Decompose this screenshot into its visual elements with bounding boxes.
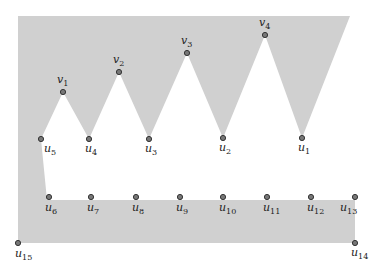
vertex-label: u1 (298, 141, 310, 156)
vertex-dot (352, 240, 357, 245)
vertex-dot (184, 50, 189, 55)
vertex-dot (146, 136, 151, 141)
vertex-label: u4 (85, 142, 97, 157)
vertex-dot (38, 136, 43, 141)
vertex-dot (60, 89, 65, 94)
vertex-dot (133, 194, 138, 199)
vertex-label: u3 (145, 142, 157, 157)
vertex-label: u2 (219, 141, 231, 156)
vertex-dot (15, 240, 20, 245)
polygon-diagram: v1v2v3v4u1u2u3u4u5u6u7u8u9u10u11u12u13u1… (0, 0, 380, 273)
vertex-u15: u15 (15, 240, 32, 262)
vertex-dot (220, 135, 225, 140)
vertex-dot (88, 194, 93, 199)
vertex-dot (352, 194, 357, 199)
vertex-label: u5 (44, 142, 56, 157)
vertex-dot (262, 32, 267, 37)
vertex-u4: u4 (85, 136, 97, 157)
vertex-dot (308, 194, 313, 199)
vertex-dot (299, 135, 304, 140)
vertex-label: u14 (351, 246, 368, 261)
vertex-dot (177, 194, 182, 199)
vertex-u1: u1 (298, 135, 310, 156)
vertex-u14: u14 (351, 240, 368, 261)
vertex-label: u15 (15, 247, 32, 262)
vertex-u3: u3 (145, 136, 157, 157)
vertex-dot (264, 194, 269, 199)
vertex-dot (220, 194, 225, 199)
vertex-u2: u2 (219, 135, 231, 156)
vertex-dot (86, 136, 91, 141)
vertex-dot (116, 69, 121, 74)
vertex-dot (46, 194, 51, 199)
